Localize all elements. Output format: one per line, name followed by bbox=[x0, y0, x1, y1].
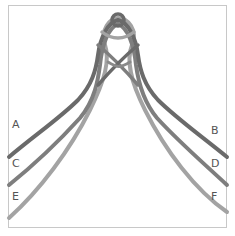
label-e: E bbox=[12, 190, 19, 203]
knot-diagram bbox=[0, 0, 235, 236]
label-f: F bbox=[211, 190, 217, 203]
label-c: C bbox=[12, 157, 20, 170]
cord-e-f bbox=[9, 18, 227, 218]
label-d: D bbox=[211, 157, 219, 170]
cord-c-d bbox=[9, 24, 227, 185]
label-b: B bbox=[211, 124, 219, 137]
cord-a-b bbox=[9, 20, 227, 157]
label-a: A bbox=[12, 118, 20, 131]
